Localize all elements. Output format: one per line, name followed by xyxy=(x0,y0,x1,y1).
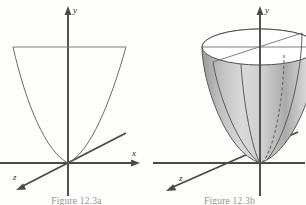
figure-panel-a: x y z Figure 12.3a xyxy=(0,0,153,205)
figure-b-caption: Figure 12.3b xyxy=(153,196,306,205)
y-axis-arrowhead-b xyxy=(257,6,264,15)
y-axis-arrowhead-a xyxy=(65,6,72,15)
z-axis-label-a: z xyxy=(12,172,17,182)
x-axis-arrowhead-a xyxy=(131,160,140,167)
x-axis-label-a: x xyxy=(131,148,136,158)
y-axis-label-b: y xyxy=(264,5,269,15)
y-axis-label-a: y xyxy=(72,5,77,15)
figure-a-caption: Figure 12.3a xyxy=(0,196,153,205)
figure-panel-b: y z Figure 12.3b xyxy=(153,0,306,205)
x-axis-a xyxy=(0,160,140,167)
figure-sheet: x y z Figure 12.3a xyxy=(0,0,306,205)
figure-b-drawing: y z xyxy=(153,0,306,205)
figure-a-drawing: x y z xyxy=(0,0,153,205)
y-axis-a xyxy=(65,6,72,196)
parabola-curve-a xyxy=(13,47,126,163)
z-axis-label-b: z xyxy=(178,173,183,183)
